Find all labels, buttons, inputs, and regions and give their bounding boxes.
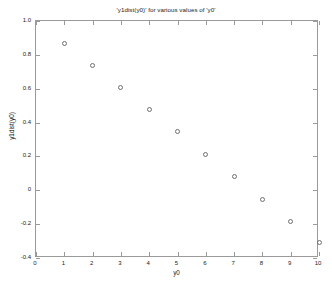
data-point[interactable] <box>203 152 208 157</box>
x-axis-tick-label: 3 <box>108 259 132 267</box>
x-axis-label: y0 <box>35 269 318 277</box>
plot-area[interactable] <box>35 20 318 257</box>
x-axis-tick <box>291 252 292 256</box>
x-axis-tick-top <box>93 21 94 25</box>
y-axis-tick-right <box>313 55 317 56</box>
x-axis-tick-label: 2 <box>80 259 104 267</box>
x-axis-tick <box>206 252 207 256</box>
y-axis-tick <box>36 21 40 22</box>
x-axis-tick-top <box>121 21 122 25</box>
y-axis-tick-right <box>313 190 317 191</box>
chart-title: 'y1dist(y0)' for various values of 'y0' <box>0 6 332 14</box>
x-axis-tick-top <box>206 21 207 25</box>
x-axis-tick-top <box>149 21 150 25</box>
y-axis-tick-label: -0.4 <box>6 253 31 261</box>
data-point[interactable] <box>147 107 152 112</box>
data-point[interactable] <box>288 219 293 224</box>
data-point[interactable] <box>175 129 180 134</box>
y-axis-tick-right <box>313 89 317 90</box>
x-axis-tick-label: 10 <box>306 259 330 267</box>
x-axis-tick <box>319 252 320 256</box>
y-axis-tick-label: 0 <box>6 185 31 193</box>
x-axis-tick-top <box>234 21 235 25</box>
x-axis-tick-label: 1 <box>51 259 75 267</box>
x-axis-tick-label: 6 <box>193 259 217 267</box>
data-point[interactable] <box>90 63 95 68</box>
x-axis-tick <box>36 252 37 256</box>
figure-canvas: 'y1dist(y0)' for various values of 'y0' … <box>0 0 332 284</box>
y-axis-tick-right <box>313 224 317 225</box>
x-axis-tick-top <box>319 21 320 25</box>
data-point[interactable] <box>232 174 237 179</box>
x-axis-tick-top <box>178 21 179 25</box>
x-axis-tick-top <box>262 21 263 25</box>
y-axis-tick-right <box>313 21 317 22</box>
y-axis-tick <box>36 123 40 124</box>
data-point[interactable] <box>118 85 123 90</box>
x-axis-tick-label: 7 <box>221 259 245 267</box>
x-axis-tick <box>149 252 150 256</box>
y-axis-tick-label: 0.2 <box>6 151 31 159</box>
x-axis-tick-label: 5 <box>165 259 189 267</box>
y-axis-tick <box>36 89 40 90</box>
y-axis-tick-label: 0.4 <box>6 118 31 126</box>
data-point[interactable] <box>62 41 67 46</box>
data-point[interactable] <box>260 197 265 202</box>
x-axis-tick <box>64 252 65 256</box>
data-point-layer <box>36 21 317 256</box>
data-point[interactable] <box>317 240 322 245</box>
x-axis-tick-label: 8 <box>249 259 273 267</box>
x-axis-tick-top <box>291 21 292 25</box>
x-axis-tick <box>93 252 94 256</box>
y-axis-tick-right <box>313 156 317 157</box>
x-axis-tick-label: 4 <box>136 259 160 267</box>
y-axis-tick-label: 1.0 <box>6 16 31 24</box>
x-axis-tick <box>262 252 263 256</box>
x-axis-tick <box>121 252 122 256</box>
y-axis-tick-label: 0.6 <box>6 84 31 92</box>
y-axis-tick-label: 0.8 <box>6 50 31 58</box>
y-axis-tick <box>36 55 40 56</box>
y-axis-tick <box>36 156 40 157</box>
y-axis-tick <box>36 190 40 191</box>
x-axis-tick-top <box>64 21 65 25</box>
x-axis-tick-label: 9 <box>278 259 302 267</box>
x-axis-tick <box>234 252 235 256</box>
x-axis-tick <box>178 252 179 256</box>
y-axis-tick-right <box>313 123 317 124</box>
y-axis-tick <box>36 224 40 225</box>
y-axis-tick-label: -0.2 <box>6 219 31 227</box>
